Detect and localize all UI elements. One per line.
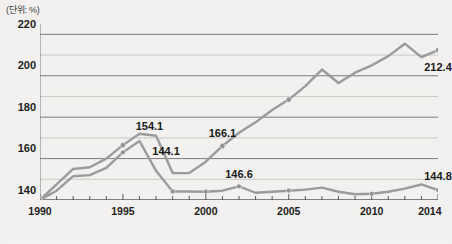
y-tick-label: 220 [2,18,36,30]
unit-label: (단위: %) [6,3,40,16]
x-tick-label: 2000 [194,205,217,217]
x-tick-label: 2014 [418,205,441,217]
y-tick-label: 160 [2,142,36,154]
data-point-marker [436,188,438,193]
data-label: 144.8 [424,170,452,182]
x-tick-label: 2010 [360,205,383,217]
data-label: 154.1 [136,120,164,132]
data-point-marker [286,188,291,193]
data-label: 144.1 [152,145,180,157]
data-point-marker [369,191,374,196]
data-point-marker [120,143,125,148]
data-point-marker [435,47,438,52]
data-point-marker [237,184,242,189]
data-label: 166.1 [209,127,237,139]
x-tick-label: 2005 [277,205,300,217]
y-axis-tick-labels: 220 200 180 160 140 [0,24,36,200]
x-axis-tick-labels: 1990 1995 2000 2005 2010 2014 [40,205,438,221]
data-point-marker [286,97,291,102]
y-tick-label: 140 [2,184,36,196]
x-tick-label: 1995 [111,205,134,217]
data-label: 146.6 [225,168,253,180]
data-point-marker [220,143,225,148]
y-tick-label: 200 [2,59,36,71]
data-point-marker [203,189,208,194]
y-tick-label: 180 [2,101,36,113]
data-label: 212.4 [424,61,452,73]
data-point-marker [170,189,175,194]
data-point-marker [121,150,126,155]
x-tick-label: 1990 [28,205,51,217]
